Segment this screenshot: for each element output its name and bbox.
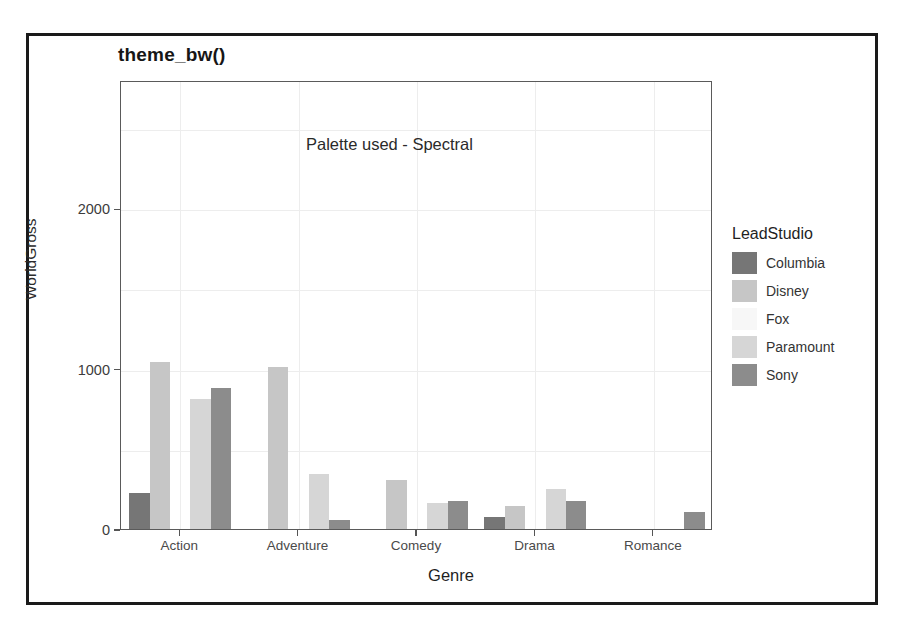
bar <box>484 517 504 529</box>
x-tick-mark <box>179 530 180 536</box>
legend-rows: ColumbiaDisneyFoxParamountSony <box>732 250 882 387</box>
legend-swatch-icon <box>732 252 757 274</box>
y-tick-mark <box>114 369 120 370</box>
x-tick-label: Drama <box>514 538 555 553</box>
y-tick-mark <box>114 209 120 210</box>
bar <box>505 506 525 529</box>
legend-swatch-icon <box>732 308 757 330</box>
x-tick-label: Adventure <box>267 538 329 553</box>
x-tick-mark <box>415 530 416 536</box>
bar <box>190 399 210 529</box>
bar <box>386 480 406 529</box>
x-tick-label: Comedy <box>391 538 441 553</box>
legend-item[interactable]: Paramount <box>732 334 882 359</box>
legend-item-label: Disney <box>766 283 809 299</box>
bar <box>566 501 586 529</box>
page-title: theme_bw() <box>118 44 226 66</box>
x-axis-label: Genre <box>0 566 902 585</box>
x-tick-mark <box>534 530 535 536</box>
legend-item[interactable]: Fox <box>732 306 882 331</box>
legend-item-label: Paramount <box>766 339 834 355</box>
bar <box>268 367 288 529</box>
legend-item[interactable]: Disney <box>732 278 882 303</box>
y-tick-mark <box>114 529 120 530</box>
x-tick-label: Action <box>160 538 198 553</box>
y-tick-label: 2000 <box>48 201 110 217</box>
bar <box>150 362 170 529</box>
legend-swatch-icon <box>732 280 757 302</box>
palette-annotation: Palette used - Spectral <box>306 135 473 154</box>
bar <box>329 520 349 529</box>
bar <box>427 503 447 529</box>
legend-swatch-icon <box>732 364 757 386</box>
legend-item-label: Columbia <box>766 255 825 271</box>
bar <box>129 493 149 529</box>
x-tick-label: Romance <box>624 538 682 553</box>
x-tick-mark <box>297 530 298 536</box>
bar <box>684 512 704 529</box>
y-axis-label: WorldGross <box>22 218 40 300</box>
y-tick-label: 1000 <box>48 362 110 378</box>
bar <box>211 388 231 529</box>
legend-item-label: Fox <box>766 311 789 327</box>
legend-title: LeadStudio <box>732 225 882 243</box>
legend: LeadStudio ColumbiaDisneyFoxParamountSon… <box>732 225 882 390</box>
bar <box>448 501 468 529</box>
x-tick-mark <box>652 530 653 536</box>
legend-item[interactable]: Sony <box>732 362 882 387</box>
y-tick-label: 0 <box>48 522 110 538</box>
bar <box>309 474 329 529</box>
legend-swatch-icon <box>732 336 757 358</box>
bar <box>546 489 566 529</box>
legend-item-label: Sony <box>766 367 798 383</box>
legend-item[interactable]: Columbia <box>732 250 882 275</box>
